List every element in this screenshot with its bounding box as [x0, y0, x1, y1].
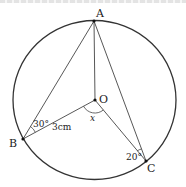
point-O	[93, 98, 96, 101]
label-B: B	[9, 137, 17, 150]
circle-diagram: A B C O 30° 3cm x 20°	[0, 0, 186, 187]
segment-AC	[94, 21, 146, 161]
angle-arc-ACO	[137, 149, 142, 151]
length-label-OB: 3cm	[52, 122, 72, 132]
angle-label-20: 20°	[126, 152, 142, 162]
angle-arc-BOC	[84, 106, 104, 113]
label-O: O	[99, 93, 108, 106]
angle-label-x: x	[90, 113, 95, 123]
angle-label-30: 30°	[33, 119, 49, 129]
point-B	[21, 137, 24, 140]
label-A: A	[95, 7, 105, 20]
geometry-figure: A B C O 30° 3cm x 20°	[0, 0, 186, 187]
segment-AO	[94, 21, 95, 100]
label-C: C	[147, 162, 155, 175]
